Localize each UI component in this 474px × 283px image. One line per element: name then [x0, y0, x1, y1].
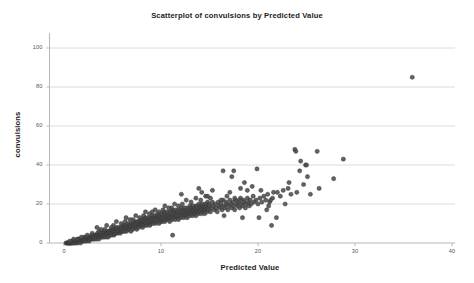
data-point: [308, 192, 312, 196]
data-point: [215, 210, 219, 214]
data-point: [232, 169, 236, 173]
data-point: [269, 223, 273, 227]
data-point: [238, 186, 242, 190]
data-point: [205, 194, 209, 198]
data-point: [180, 202, 184, 206]
data-point: [225, 194, 229, 198]
plot-area: [0, 0, 474, 283]
data-point: [233, 196, 237, 200]
data-point: [172, 202, 176, 206]
data-point: [265, 208, 269, 212]
data-point: [264, 198, 268, 202]
data-point: [266, 192, 270, 196]
data-point: [75, 237, 79, 241]
data-point: [301, 182, 305, 186]
data-point: [289, 192, 293, 196]
data-point: [257, 216, 261, 220]
data-point: [176, 204, 180, 208]
data-point: [143, 210, 147, 214]
data-point: [153, 208, 157, 212]
data-point: [281, 188, 285, 192]
x-tick-label-10: 10: [146, 248, 176, 254]
data-point-group: [64, 75, 414, 245]
data-point: [295, 190, 299, 194]
data-point: [255, 167, 259, 171]
data-point: [242, 180, 246, 184]
data-point: [109, 225, 113, 229]
data-point: [259, 188, 263, 192]
data-point: [138, 216, 142, 220]
data-point: [199, 198, 203, 202]
y-tick-label-60: 60: [18, 122, 42, 128]
data-point: [269, 198, 273, 202]
x-tick-label-30: 30: [340, 248, 370, 254]
data-point: [134, 214, 138, 218]
data-point: [163, 204, 167, 208]
data-point: [260, 200, 264, 204]
data-point: [221, 169, 225, 173]
data-point: [99, 227, 103, 231]
y-tick-label-20: 20: [18, 200, 42, 206]
data-point: [141, 214, 145, 218]
data-point: [286, 186, 290, 190]
scatter-chart: Scatterplot of convulsions by Predicted …: [0, 0, 474, 283]
data-point: [294, 149, 298, 153]
data-point: [251, 194, 255, 198]
data-point: [271, 190, 275, 194]
data-point: [315, 149, 319, 153]
data-point: [341, 157, 345, 161]
data-point: [410, 75, 414, 79]
data-point: [123, 219, 127, 223]
data-point: [262, 194, 266, 198]
data-point: [233, 208, 237, 212]
data-point: [275, 190, 279, 194]
data-point: [250, 184, 254, 188]
data-point: [189, 200, 193, 204]
gridlines: [50, 48, 456, 204]
y-tick-label-0: 0: [18, 239, 42, 245]
data-point: [222, 214, 226, 218]
data-point: [230, 175, 234, 179]
data-point: [161, 208, 165, 212]
data-point: [219, 198, 223, 202]
data-point: [103, 227, 107, 231]
data-point: [317, 186, 321, 190]
data-point: [283, 202, 287, 206]
data-point: [68, 239, 72, 243]
data-point: [237, 198, 241, 202]
data-point: [299, 159, 303, 163]
data-point: [304, 163, 308, 167]
data-point: [332, 177, 336, 181]
data-point: [184, 198, 188, 202]
data-point: [278, 194, 282, 198]
x-tick-label-0: 0: [49, 248, 79, 254]
y-tick-label-40: 40: [18, 161, 42, 167]
tick-marks: [47, 48, 453, 246]
data-point: [124, 216, 128, 220]
data-point: [226, 208, 230, 212]
data-point: [171, 233, 175, 237]
data-point: [200, 190, 204, 194]
y-tick-label-80: 80: [18, 83, 42, 89]
data-point: [248, 198, 252, 202]
data-point: [305, 175, 309, 179]
data-point: [157, 210, 161, 214]
data-point: [254, 198, 258, 202]
x-tick-label-40: 40: [437, 248, 467, 254]
data-point: [179, 192, 183, 196]
data-point: [245, 188, 249, 192]
data-point: [194, 196, 198, 200]
data-point: [128, 218, 132, 222]
data-point: [119, 221, 123, 225]
data-point: [167, 206, 171, 210]
data-point: [79, 235, 83, 239]
data-point: [258, 196, 262, 200]
data-point: [90, 231, 94, 235]
data-point: [105, 223, 109, 227]
data-point: [210, 188, 214, 192]
data-point: [240, 216, 244, 220]
data-point: [243, 206, 247, 210]
y-tick-label-100: 100: [18, 44, 42, 50]
data-point: [147, 212, 151, 216]
data-point: [256, 202, 260, 206]
